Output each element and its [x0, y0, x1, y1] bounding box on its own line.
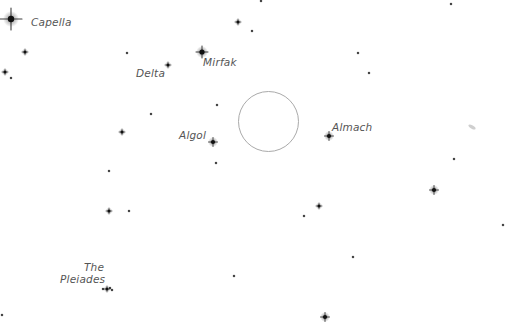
label-delta: Delta — [136, 67, 165, 79]
galaxy-smudge — [468, 124, 477, 131]
star-star-icon — [250, 29, 254, 33]
star-star-icon — [235, 19, 242, 26]
star-star-icon — [356, 51, 360, 55]
star-star-icon — [127, 209, 131, 213]
star-star-icon — [214, 161, 218, 165]
star-star-icon — [106, 208, 113, 215]
capella-star-icon — [0, 8, 22, 30]
star-star-icon — [351, 255, 355, 259]
star-star-icon — [452, 157, 456, 161]
label-pleiades: Pleiades — [60, 273, 105, 285]
star-star-icon — [2, 69, 9, 76]
star-star-icon — [501, 223, 505, 227]
star-star-icon — [316, 203, 323, 210]
star-star-icon — [125, 51, 129, 55]
star-star-icon — [22, 49, 29, 56]
label-the: The — [84, 261, 104, 273]
label-algol: Algol — [179, 129, 206, 141]
algol-star-icon — [208, 137, 218, 147]
star-star-icon — [0, 313, 4, 317]
star-star-icon — [449, 2, 453, 6]
star-star-icon — [119, 129, 126, 136]
label-mirfak: Mirfak — [203, 56, 237, 68]
field-circle — [239, 92, 299, 152]
field-of-view-circle — [239, 92, 299, 152]
star-star-icon — [259, 0, 263, 3]
star-star-icon — [149, 112, 153, 116]
star-star-icon — [9, 76, 13, 80]
star-star-icon — [107, 169, 111, 173]
label-capella: Capella — [31, 16, 72, 28]
star-star-icon — [367, 71, 371, 75]
star-star-icon — [232, 274, 236, 278]
star-star-icon — [302, 214, 306, 218]
smudge-layer — [468, 124, 477, 131]
star-star-icon — [215, 103, 219, 107]
label-almach: Almach — [332, 121, 372, 133]
star-star-icon — [320, 312, 330, 322]
star-star-icon — [429, 185, 439, 195]
delta-star-icon — [165, 62, 172, 69]
pleiades-4-star-icon — [110, 288, 114, 292]
